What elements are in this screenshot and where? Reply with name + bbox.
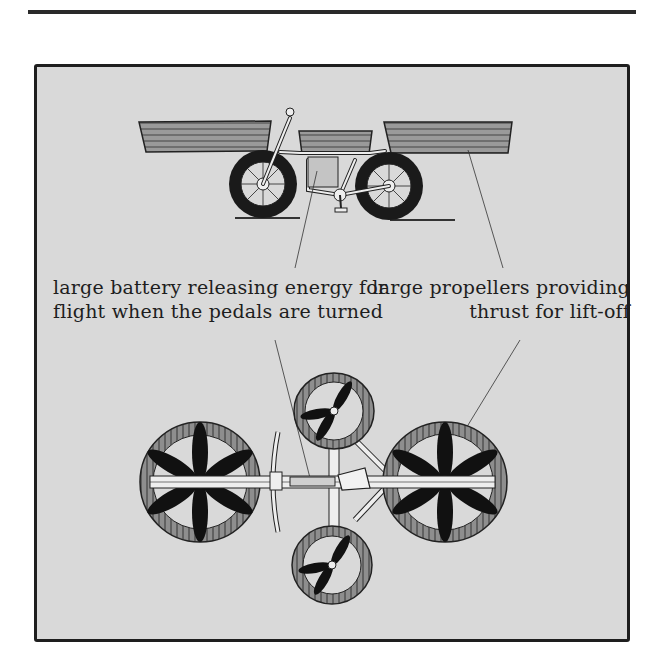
label-battery-line2: flight when the pedals are turned	[53, 299, 387, 323]
side-view-bike	[139, 108, 512, 220]
propeller-housing-center	[299, 131, 372, 154]
rotor-top	[294, 373, 374, 449]
battery-side	[308, 157, 338, 187]
leader-line-propeller-bottom	[465, 340, 520, 430]
propeller-housing-left	[139, 121, 271, 152]
label-propellers: large propellers providing thrust for li…	[372, 275, 630, 323]
illustration	[0, 0, 664, 667]
label-battery: large battery releasing energy for fligh…	[53, 275, 387, 323]
top-view-bike	[140, 373, 507, 604]
seat	[338, 468, 370, 490]
stem	[270, 472, 282, 490]
handlebar-grip	[286, 108, 294, 116]
battery-top	[290, 477, 335, 486]
label-propellers-line2: thrust for lift-off	[372, 299, 630, 323]
rotor-bottom	[292, 526, 372, 604]
label-battery-line1: large battery releasing energy for	[53, 275, 387, 299]
leader-line-propeller-top	[468, 150, 503, 268]
propeller-housing-right	[384, 122, 512, 153]
pedal	[335, 208, 347, 212]
label-propellers-line1: large propellers providing	[372, 275, 630, 299]
